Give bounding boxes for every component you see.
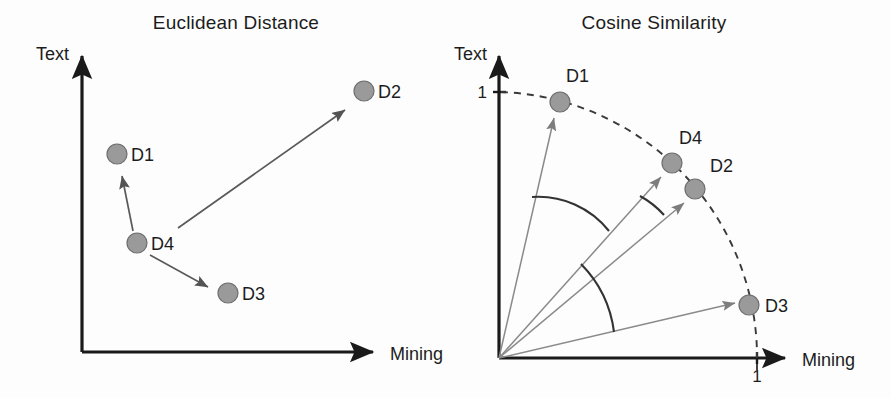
x-axis-label-euclidean: Mining: [390, 344, 443, 364]
document-point-d2-cosine: D2: [685, 156, 733, 199]
diagram-canvas: Euclidean Distance Text Mining D1 D2: [0, 0, 891, 398]
document-point-d3-euclidean: D3: [218, 283, 265, 304]
document-dot: [550, 92, 570, 112]
document-label: D3: [765, 296, 788, 316]
distance-arrow-d4-d1: [122, 176, 133, 231]
document-dot: [354, 81, 374, 101]
document-point-d1-cosine: D1: [550, 66, 589, 112]
document-label: D2: [378, 82, 401, 102]
document-label: D1: [131, 145, 154, 165]
vector-d2: [499, 203, 684, 358]
y-axis-label-euclidean: Text: [36, 44, 69, 64]
panel-title-euclidean: Euclidean Distance: [153, 12, 319, 33]
document-label: D4: [679, 128, 702, 148]
document-point-d4-cosine: D4: [662, 128, 702, 173]
document-label: D2: [710, 156, 733, 176]
vector-d4: [499, 177, 661, 358]
angle-arc-d4-d2: [640, 196, 664, 215]
x-axis-label-cosine: Mining: [802, 350, 855, 370]
y-tick-label-one: 1: [478, 83, 487, 102]
document-dot: [127, 233, 147, 253]
document-dot: [739, 295, 759, 315]
panel-cosine-similarity: Cosine Similarity Text Mining 1 1: [454, 12, 855, 386]
document-point-d1-euclidean: D1: [107, 144, 154, 165]
distance-arrow-d4-d2: [178, 110, 345, 228]
document-dot: [218, 283, 238, 303]
distance-arrow-d4-d3: [150, 255, 208, 287]
figure-root: Euclidean Distance Text Mining D1 D2: [0, 0, 891, 398]
document-point-d4-euclidean: D4: [127, 233, 174, 254]
document-label: D3: [242, 284, 265, 304]
panel-title-cosine: Cosine Similarity: [582, 12, 727, 33]
vector-d3: [499, 303, 735, 358]
document-dot: [685, 179, 705, 199]
angle-arc-d2-d3: [581, 264, 614, 332]
document-dot: [662, 153, 682, 173]
document-point-d3-cosine: D3: [739, 295, 788, 316]
vector-d1: [499, 118, 554, 358]
document-dot: [107, 144, 127, 164]
document-label: D1: [566, 66, 589, 86]
y-axis-label-cosine: Text: [454, 44, 487, 64]
document-point-d2-euclidean: D2: [354, 81, 401, 102]
panel-euclidean-distance: Euclidean Distance Text Mining D1 D2: [36, 12, 443, 364]
document-label: D4: [151, 234, 174, 254]
angle-arc-d1-d4: [532, 197, 609, 231]
